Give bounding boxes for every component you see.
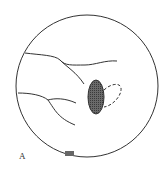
dashed-ellipse <box>104 84 121 107</box>
lower-vessel <box>18 93 76 103</box>
diagram-canvas <box>0 0 168 171</box>
lower-vessel-branch <box>48 100 75 125</box>
shaded-ellipse <box>88 80 104 114</box>
upper-vessel <box>25 53 117 65</box>
scale-marker <box>65 151 74 156</box>
upper-vessel-branch <box>60 60 84 84</box>
panel-label: A <box>19 151 26 161</box>
outer-circle <box>16 15 158 157</box>
